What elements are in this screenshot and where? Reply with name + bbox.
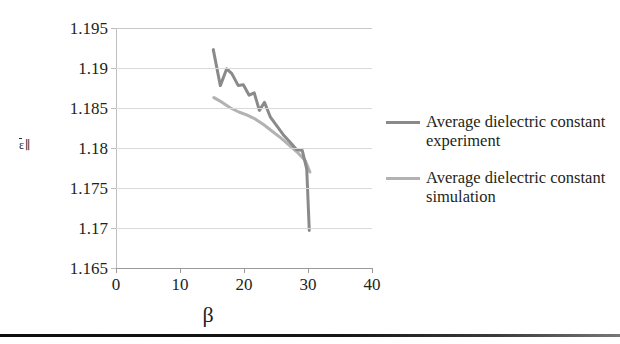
y-axis-title: ε ∥ — [18, 139, 31, 151]
series-line-experiment — [213, 50, 309, 231]
x-tick-label: 20 — [224, 276, 264, 294]
y-tick-label: 1.19 — [12, 60, 108, 77]
y-axis-title-parallel: ∥ — [25, 139, 31, 151]
x-tick-label: 0 — [96, 276, 136, 294]
legend-item-simulation: Average dielectric constant simulation — [386, 168, 614, 206]
y-tick-label: 1.165 — [12, 260, 108, 277]
legend-color-swatch-simulation — [386, 177, 420, 180]
gridline — [116, 148, 372, 149]
overbar-decoration — [19, 138, 22, 139]
x-tick-mark — [372, 268, 373, 273]
page-bottom-rule — [0, 334, 620, 337]
x-tick-label: 30 — [288, 276, 328, 294]
chart-figure: 1.195 1.19 1.185 1.18 1.175 1.17 1.165 ε… — [0, 0, 620, 344]
y-axis-title-symbol: ε — [19, 138, 24, 152]
plot-area — [116, 28, 372, 268]
legend-item-experiment: Average dielectric constant experiment — [386, 112, 614, 150]
legend-label-simulation: Average dielectric constant simulation — [426, 168, 611, 206]
y-tick-label: 1.195 — [12, 20, 108, 37]
x-tick-label: 10 — [160, 276, 200, 294]
x-tick-mark — [244, 268, 245, 273]
x-tick-mark — [116, 268, 117, 273]
gridline — [116, 188, 372, 189]
gridline — [116, 228, 372, 229]
y-axis-title-epsilon: ε — [18, 139, 25, 151]
y-axis-tick-labels: 1.195 1.19 1.185 1.18 1.175 1.17 1.165 — [8, 0, 108, 344]
legend-color-swatch-experiment — [386, 121, 420, 124]
x-tick-label: 40 — [352, 276, 392, 294]
y-tick-label: 1.185 — [12, 100, 108, 117]
y-tick-label: 1.17 — [12, 220, 108, 237]
x-axis-title: β — [196, 303, 220, 327]
legend-label-experiment: Average dielectric constant experiment — [426, 112, 611, 150]
chart-legend: Average dielectric constant experiment A… — [386, 112, 614, 224]
gridline — [116, 28, 372, 29]
x-tick-mark — [180, 268, 181, 273]
gridline — [116, 68, 372, 69]
y-tick-label: 1.175 — [12, 180, 108, 197]
x-tick-mark — [308, 268, 309, 273]
gridline — [116, 108, 372, 109]
